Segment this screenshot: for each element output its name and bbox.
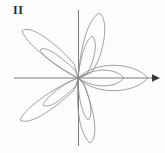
- petal-inner-144deg: [40, 49, 78, 78]
- polar-rose-plot: [0, 0, 165, 153]
- petal-outer-144deg: [22, 29, 78, 78]
- x-axis-arrowhead: [152, 74, 160, 82]
- petal-outer-288deg: [77, 78, 95, 143]
- figure-container: II: [0, 0, 165, 153]
- petal-inner-288deg: [78, 78, 91, 120]
- petal-outer-216deg: [20, 78, 78, 121]
- petal-outer-72deg: [78, 13, 105, 78]
